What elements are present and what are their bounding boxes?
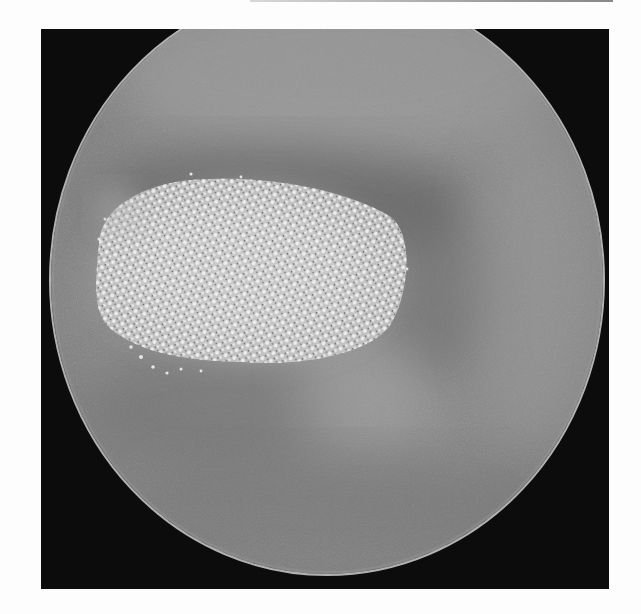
top-divider-line [250, 0, 613, 2]
granular-lesion [91, 172, 408, 374]
endoscopic-photo [41, 29, 609, 589]
page [0, 0, 641, 614]
photo-canvas [41, 29, 609, 589]
